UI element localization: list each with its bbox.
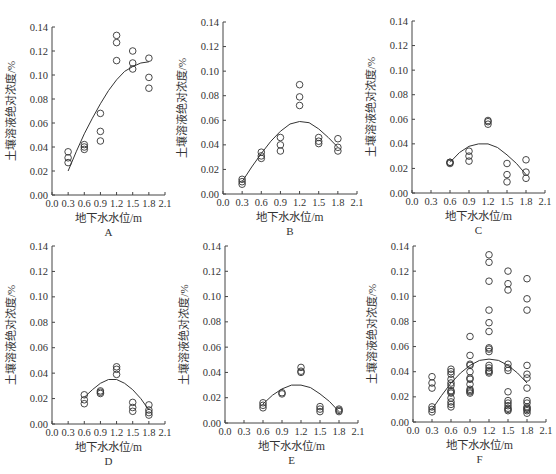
y-tick-label: 0.10 — [391, 291, 409, 302]
y-tick-label: 0.12 — [201, 41, 219, 52]
y-tick-label: 0.04 — [30, 368, 49, 379]
x-tick-label: 2.1 — [351, 426, 364, 437]
x-tick-label: 1.2 — [293, 197, 306, 208]
data-point — [97, 128, 104, 135]
data-point — [467, 368, 474, 375]
x-axis-title: 地下水水位/m — [258, 439, 325, 452]
x-tick-label: 1.5 — [501, 425, 514, 436]
x-tick-label: 1.5 — [500, 196, 513, 207]
data-point — [448, 395, 455, 402]
y-tick-label: 0.06 — [390, 114, 408, 125]
y-tick-label: 0.10 — [203, 291, 221, 302]
data-point — [129, 48, 136, 55]
x-tick-label: 0.0 — [45, 427, 58, 438]
data-point — [524, 371, 531, 378]
data-point — [129, 408, 136, 415]
panel-E: 0.000.020.040.060.080.100.120.140.00.30.… — [177, 241, 365, 467]
panel-label: D — [105, 455, 113, 467]
y-tick-label: 0.02 — [390, 163, 408, 174]
y-tick-label: 0.04 — [391, 366, 410, 377]
data-point — [486, 307, 493, 314]
y-tick-label: 0.04 — [203, 367, 222, 378]
x-tick-label: 0.0 — [216, 197, 229, 208]
y-tick-label: 0.14 — [30, 22, 49, 33]
y-tick-label: 0.14 — [391, 241, 410, 252]
y-tick-label: 0.08 — [30, 317, 48, 328]
fit-curve — [432, 359, 527, 409]
x-tick-label: 0.3 — [237, 426, 250, 437]
x-axis-title: 地下水水位/m — [445, 209, 512, 222]
data-point — [486, 328, 493, 335]
data-point — [467, 352, 474, 359]
x-tick-label: 1.2 — [110, 198, 123, 209]
y-tick-label: 0.14 — [390, 16, 409, 27]
y-tick-label: 0.08 — [391, 316, 409, 327]
panel-label: F — [476, 453, 482, 465]
data-point — [486, 278, 493, 285]
data-point — [129, 404, 136, 411]
data-point — [65, 159, 72, 166]
y-tick-label: 0.10 — [390, 65, 408, 76]
x-tick-label: 0.9 — [462, 196, 475, 207]
y-tick-label: 0.06 — [201, 115, 219, 126]
data-point — [113, 57, 120, 64]
data-point — [505, 268, 512, 275]
panel-C: 0.000.020.040.060.080.100.120.140.00.30.… — [364, 16, 552, 237]
panel-label: E — [288, 454, 295, 466]
data-point — [81, 397, 88, 404]
data-point — [277, 142, 284, 149]
x-tick-label: 0.3 — [62, 427, 75, 438]
y-tick-label: 0.12 — [30, 46, 48, 57]
x-tick-label: 1.5 — [126, 427, 139, 438]
data-point — [486, 259, 493, 266]
x-tick-label: 0.0 — [405, 196, 418, 207]
y-axis-title: 土壤溶液绝对浓度/% — [365, 284, 378, 384]
data-point — [429, 373, 436, 380]
data-point — [113, 371, 120, 378]
data-point — [524, 307, 531, 314]
fit-curve — [84, 380, 149, 411]
panel-label: C — [475, 224, 482, 236]
y-tick-label: 0.04 — [201, 139, 220, 150]
data-point — [524, 362, 531, 369]
data-point — [146, 74, 153, 81]
y-axis-title: 土壤溶液绝对浓度/% — [175, 58, 188, 158]
panel-B: 0.000.020.040.060.080.100.120.140.00.30.… — [175, 17, 364, 238]
x-tick-label: 0.6 — [256, 426, 269, 437]
data-point — [486, 252, 493, 259]
x-tick-label: 2.1 — [539, 425, 552, 436]
y-tick-label: 0.06 — [391, 341, 409, 352]
x-tick-label: 0.0 — [218, 426, 231, 437]
chart-canvas: 0.000.020.040.060.080.100.120.140.00.30.… — [0, 0, 556, 474]
x-axis-title: 地下水水位/m — [75, 211, 142, 224]
x-axis-title: 地下水水位/m — [256, 210, 323, 223]
y-tick-label: 0.10 — [30, 70, 48, 81]
x-tick-label: 0.3 — [62, 198, 75, 209]
data-point — [429, 385, 436, 392]
y-axis-title: 土壤溶液绝对浓度/% — [4, 285, 17, 385]
data-point — [113, 32, 120, 39]
x-tick-label: 0.6 — [78, 198, 91, 209]
y-tick-label: 0.02 — [30, 393, 48, 404]
x-tick-label: 1.8 — [142, 427, 155, 438]
y-axis-title: 土壤溶液绝对浓度/% — [364, 57, 377, 157]
y-tick-label: 0.12 — [391, 266, 409, 277]
x-axis-title: 地下水水位/m — [75, 440, 142, 453]
y-tick-label: 0.14 — [203, 241, 222, 252]
y-tick-label: 0.04 — [30, 142, 49, 153]
y-tick-label: 0.02 — [30, 166, 48, 177]
data-point — [335, 135, 342, 142]
y-tick-label: 0.06 — [30, 342, 48, 353]
figure-root: 0.000.020.040.060.080.100.120.140.00.30.… — [0, 0, 556, 474]
y-tick-label: 0.12 — [390, 40, 408, 51]
y-tick-label: 0.14 — [30, 241, 49, 252]
y-axis-title: 土壤溶液绝对浓度/% — [177, 284, 190, 384]
x-axis-title: 地下水水位/m — [446, 438, 513, 451]
panel-A: 0.000.020.040.060.080.100.120.140.00.30.… — [4, 22, 172, 239]
x-tick-label: 1.8 — [520, 425, 533, 436]
data-point — [146, 85, 153, 92]
x-tick-label: 1.5 — [126, 198, 139, 209]
data-point — [504, 160, 511, 167]
data-point — [505, 389, 512, 396]
y-tick-label: 0.08 — [30, 94, 48, 105]
